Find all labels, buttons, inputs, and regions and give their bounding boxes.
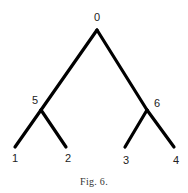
node-label-1: 1 bbox=[12, 152, 18, 164]
node-label-5: 5 bbox=[32, 94, 38, 106]
edge-5-1 bbox=[15, 110, 41, 147]
node-label-6: 6 bbox=[154, 97, 160, 109]
edge-5-2 bbox=[41, 110, 66, 147]
edge-0-6 bbox=[97, 30, 147, 110]
edge-6-4 bbox=[147, 110, 174, 147]
tree-edges bbox=[15, 30, 174, 147]
edge-0-5 bbox=[41, 30, 97, 110]
node-label-3: 3 bbox=[123, 154, 129, 166]
tree-diagram: 0561234 Fig. 6. bbox=[0, 0, 188, 193]
node-label-2: 2 bbox=[65, 152, 71, 164]
node-label-0: 0 bbox=[94, 11, 100, 23]
figure-caption: Fig. 6. bbox=[80, 176, 108, 187]
edge-6-3 bbox=[125, 110, 147, 147]
node-label-4: 4 bbox=[173, 154, 179, 166]
